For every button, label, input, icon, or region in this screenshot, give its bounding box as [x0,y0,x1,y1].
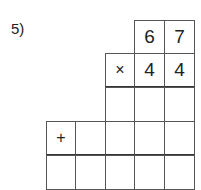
partial-product-2-cell[interactable] [75,121,106,156]
answer-cell[interactable] [134,155,165,190]
multiplier-digit-ones: 4 [164,53,195,88]
multiplier-digit-tens: 4 [134,53,165,88]
partial-product-2-cell[interactable] [134,121,165,156]
problem-number: 5) [11,20,24,37]
partial-product-1-cell[interactable] [134,87,165,122]
answer-cell[interactable] [46,155,76,190]
answer-cell[interactable] [164,155,195,190]
plus-sign: + [46,121,76,156]
times-sign: × [105,53,135,88]
partial-product-1-cell[interactable] [164,87,195,122]
answer-cell[interactable] [75,155,106,190]
answer-cell[interactable] [105,155,135,190]
partial-product-1-cell[interactable] [105,87,135,122]
multiplicand-digit-ones: 7 [164,20,195,54]
partial-product-2-cell[interactable] [105,121,135,156]
multiplicand-digit-tens: 6 [134,20,165,54]
partial-product-2-cell[interactable] [164,121,195,156]
